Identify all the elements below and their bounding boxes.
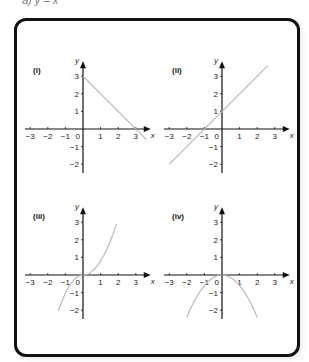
y-axis-label: y — [74, 202, 80, 211]
x-tick-label: −1 — [61, 132, 71, 141]
y-tick-label: 3 — [75, 72, 80, 81]
y-tick-label: 1 — [75, 107, 80, 116]
x-tick-label: −1 — [200, 132, 210, 141]
x-arrow-icon — [144, 272, 151, 278]
y-arrow-icon — [219, 61, 225, 68]
y-tick-label: 3 — [214, 72, 219, 81]
function-curve — [83, 76, 146, 139]
panel-label: (iv) — [172, 212, 184, 221]
x-tick-label: 3 — [134, 132, 139, 141]
y-axis-label: y — [74, 56, 80, 65]
x-axis-label: x — [289, 277, 295, 286]
panel-label: (i) — [33, 66, 41, 75]
y-tick-label: −2 — [209, 306, 219, 315]
x-tick-label: 2 — [116, 132, 121, 141]
x-axis-label: x — [150, 277, 156, 286]
y-tick-label: −2 — [70, 306, 80, 315]
x-axis-label: x — [289, 131, 295, 140]
graph-1: −3−2−11230321−1−2xy(i) — [25, 56, 156, 173]
y-tick-label: −2 — [209, 160, 219, 169]
y-tick-label: 2 — [75, 236, 80, 245]
y-tick-label: 3 — [75, 218, 80, 227]
origin-label: 0 — [76, 278, 81, 287]
y-tick-label: 2 — [214, 90, 219, 99]
y-arrow-icon — [80, 61, 86, 68]
x-tick-label: 3 — [273, 278, 278, 287]
y-tick-label: 1 — [75, 253, 80, 262]
y-arrow-icon — [80, 207, 86, 214]
graph-4: −3−2−11230321−1−2xy(iv) — [164, 202, 295, 319]
x-tick-label: 2 — [255, 132, 260, 141]
x-tick-label: 1 — [98, 278, 103, 287]
panel-label: (iii) — [33, 212, 45, 221]
y-tick-label: 2 — [75, 90, 80, 99]
x-tick-label: −2 — [43, 132, 53, 141]
x-tick-label: 2 — [116, 278, 121, 287]
origin-label: 0 — [76, 132, 81, 141]
x-arrow-icon — [283, 126, 290, 132]
origin-label: 0 — [215, 132, 220, 141]
x-tick-label: 2 — [255, 278, 260, 287]
function-curve — [58, 224, 116, 311]
graph-2: −3−2−11230321−1−2xy(ii) — [164, 56, 295, 173]
panel-label: (ii) — [172, 66, 182, 75]
y-arrow-icon — [219, 207, 225, 214]
graphs-canvas: −3−2−11230321−1−2xy(i)−3−2−11230321−1−2x… — [0, 0, 309, 362]
x-tick-label: −2 — [43, 278, 53, 287]
y-axis-label: y — [213, 202, 219, 211]
x-tick-label: −3 — [165, 132, 175, 141]
x-tick-label: −2 — [182, 132, 192, 141]
x-tick-label: 1 — [98, 132, 103, 141]
y-tick-label: −1 — [209, 143, 219, 152]
y-tick-label: 1 — [214, 253, 219, 262]
graph-3: −3−2−11230321−1−2xy(iii) — [25, 202, 156, 319]
x-tick-label: 3 — [273, 132, 278, 141]
y-tick-label: 3 — [214, 218, 219, 227]
x-tick-label: 3 — [134, 278, 139, 287]
y-tick-label: −1 — [70, 143, 80, 152]
y-tick-label: −1 — [70, 289, 80, 298]
x-arrow-icon — [144, 126, 151, 132]
x-tick-label: −3 — [26, 132, 36, 141]
x-tick-label: −3 — [26, 278, 36, 287]
x-tick-label: −2 — [182, 278, 192, 287]
x-arrow-icon — [283, 272, 290, 278]
x-axis-label: x — [150, 131, 156, 140]
origin-label: 0 — [215, 278, 220, 287]
y-axis-label: y — [213, 56, 219, 65]
y-tick-label: 2 — [214, 236, 219, 245]
function-curve — [169, 66, 268, 165]
y-tick-label: −2 — [70, 160, 80, 169]
x-tick-label: 1 — [237, 132, 242, 141]
y-tick-label: −1 — [209, 289, 219, 298]
x-tick-label: −3 — [165, 278, 175, 287]
